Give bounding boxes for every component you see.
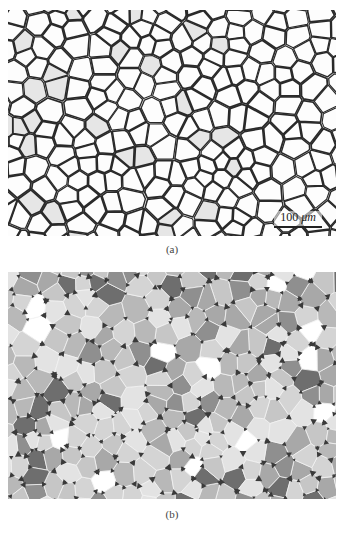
caption-a: (a) [0, 243, 344, 255]
caption-b: (b) [0, 508, 344, 520]
grain-map-panel-b [8, 272, 336, 499]
scale-bar: 100 μm [274, 211, 322, 228]
scale-bar-unit: μm [301, 210, 316, 224]
grain-micrograph-image [8, 10, 336, 236]
segmented-grain-image [8, 272, 336, 499]
scale-bar-value: 100 [280, 210, 298, 224]
micrograph-panel-a: 100 μm [8, 10, 336, 236]
scale-bar-line [274, 226, 322, 228]
